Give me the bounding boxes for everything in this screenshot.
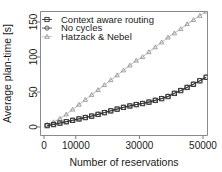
- triangle-marker-icon: [45, 34, 50, 38]
- x-axis: 0100003000050000: [41, 136, 217, 151]
- y-tick-label: 100: [28, 48, 39, 65]
- data-series: [45, 75, 208, 128]
- plot-canvas: 0501001500100003000050000Number of reser…: [0, 0, 222, 172]
- y-tick-label: 50: [28, 86, 39, 98]
- y-tick-label: 0: [28, 124, 39, 130]
- data-series: [45, 75, 208, 128]
- x-tick-label: 30000: [125, 140, 153, 151]
- x-axis-title: Number of reservations: [69, 156, 178, 168]
- y-axis: 050100150: [28, 13, 40, 130]
- y-tick-label: 150: [28, 13, 39, 30]
- x-tick-label: 50000: [189, 140, 217, 151]
- legend-item: Hatzack & Nebel: [42, 31, 132, 42]
- legend-label: Hatzack & Nebel: [61, 31, 132, 42]
- legend: Context aware routingNo cyclesHatzack & …: [42, 14, 154, 42]
- x-tick-label: 0: [41, 140, 47, 151]
- chart-figure: 0501001500100003000050000Number of reser…: [0, 0, 222, 172]
- x-tick-label: 10000: [62, 140, 90, 151]
- y-axis-title: Average plan-time [s]: [1, 24, 13, 123]
